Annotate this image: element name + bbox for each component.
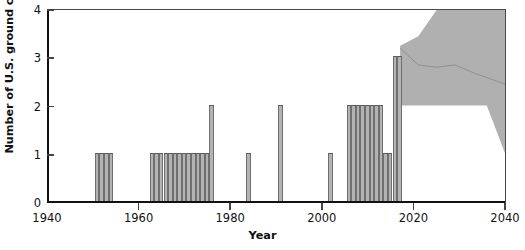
bar	[278, 105, 283, 202]
x-axis-tick	[413, 203, 415, 210]
x-axis-tick-label: 2000	[299, 211, 345, 225]
y-axis-title-container: Number of U.S. ground combat missions	[0, 0, 24, 250]
y-axis-tick-label: 3	[5, 51, 41, 65]
x-axis-tick-label: 1940	[24, 211, 70, 225]
bar	[328, 153, 333, 201]
x-axis-tick-label: 1960	[116, 211, 162, 225]
y-axis-tick-label: 2	[5, 100, 41, 114]
y-axis-tick-label: 4	[5, 3, 41, 17]
plot-area	[47, 10, 505, 203]
y-axis-tick-label: 1	[5, 148, 41, 162]
bar	[246, 153, 251, 201]
x-axis-tick	[229, 203, 231, 210]
y-axis-tick	[47, 106, 54, 108]
projection-median-line	[400, 48, 505, 84]
y-axis-tick	[47, 57, 54, 59]
y-axis-tick	[47, 9, 54, 11]
x-axis-tick	[138, 203, 140, 210]
x-axis-tick-label: 1980	[207, 211, 253, 225]
y-axis-tick	[47, 154, 54, 156]
bar	[109, 153, 114, 201]
y-axis-title: Number of U.S. ground combat missions	[3, 0, 16, 154]
projection-band	[49, 10, 505, 201]
chart-figure: Number of U.S. ground combat missions 01…	[0, 0, 525, 250]
bar	[397, 56, 402, 201]
x-axis-tick	[321, 203, 323, 210]
x-axis-tick	[504, 203, 506, 210]
bar	[209, 105, 214, 202]
x-axis-title: Year	[0, 229, 525, 242]
y-axis-tick-label: 0	[5, 196, 41, 210]
x-axis-tick-label: 2040	[482, 211, 525, 225]
x-axis-tick-label: 2020	[390, 211, 436, 225]
projection-band-area	[400, 10, 505, 153]
